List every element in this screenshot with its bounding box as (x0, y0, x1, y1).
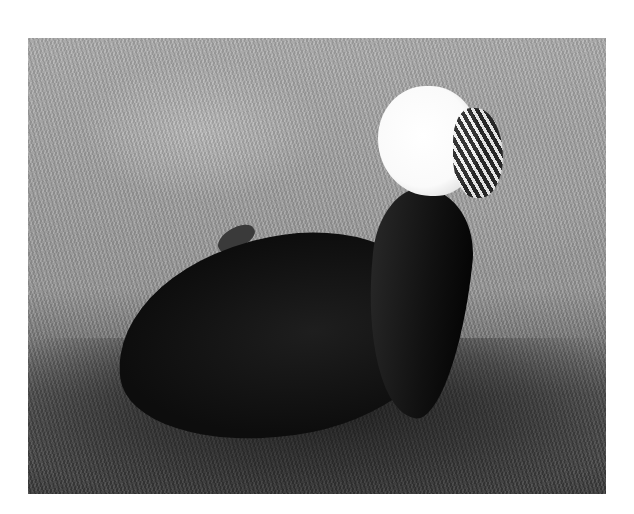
page-frame (0, 0, 634, 514)
chicken-photo (28, 38, 606, 494)
